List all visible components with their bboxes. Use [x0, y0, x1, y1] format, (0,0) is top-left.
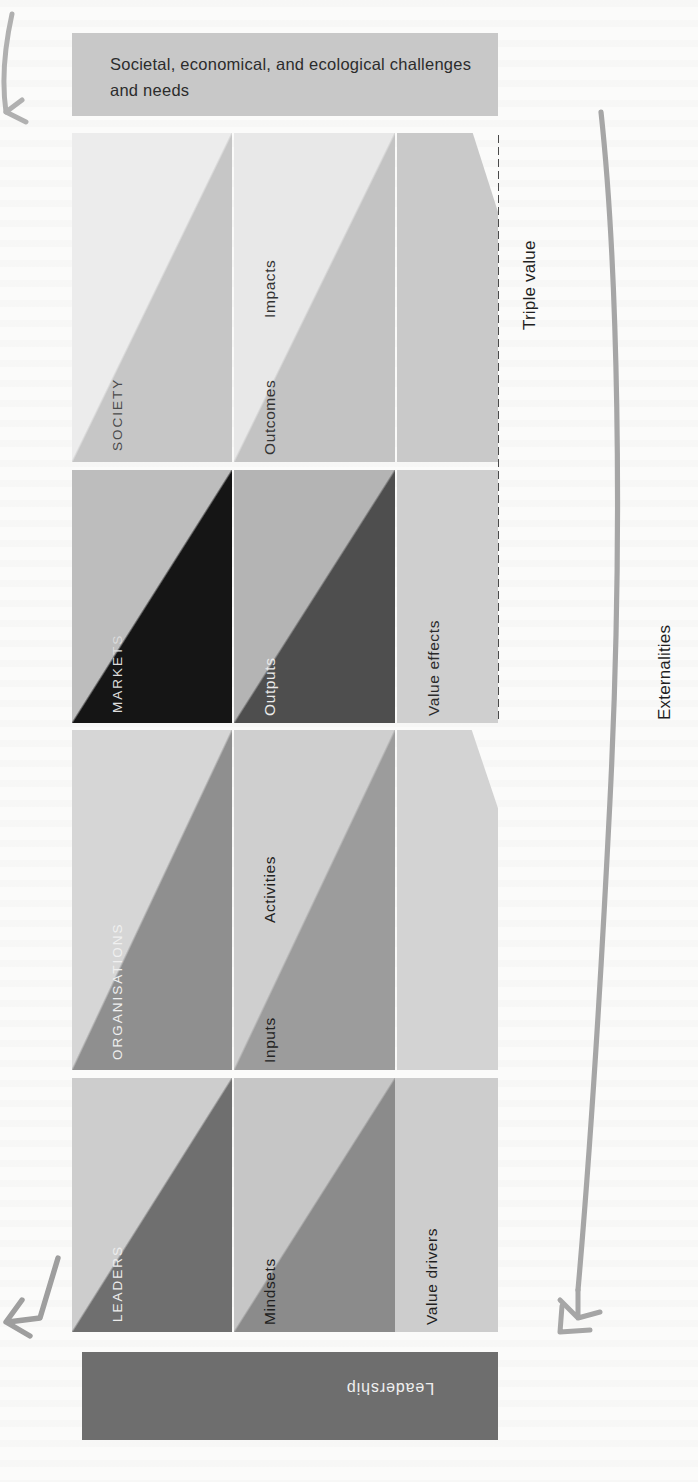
bottom-left-arrowhead — [6, 1300, 30, 1336]
organisations-activities-label: Activities — [261, 856, 279, 923]
prism-highlight — [72, 730, 232, 1070]
markets-value-effects-label: Value effects — [425, 620, 443, 716]
band-markets: MARKETS Outputs Value effects — [72, 470, 498, 723]
leaders-value-drivers-label: Value drivers — [423, 1228, 441, 1325]
society-impacts-label: Impacts — [261, 260, 279, 318]
leadership-footer-text: Leadership — [346, 1379, 434, 1397]
prism-highlight — [72, 1078, 232, 1332]
society-col-actor: SOCIETY — [72, 133, 232, 462]
organisations-col-actor: ORGANISATIONS — [72, 730, 232, 1070]
society-col-outcomes: Outcomes Impacts — [234, 133, 395, 462]
leaders-mindsets-label: Mindsets — [261, 1258, 279, 1325]
band-organisations: ORGANISATIONS Inputs Activities — [72, 730, 498, 1070]
externalities-arrowhead-bottom — [560, 1290, 600, 1318]
prism-highlight — [234, 730, 395, 1070]
prism-highlight — [234, 470, 395, 723]
organisations-col-tail — [397, 730, 498, 1070]
markets-outputs-label: Outputs — [261, 658, 279, 716]
leadership-footer-bar: Leadership — [82, 1352, 498, 1440]
bottom-left-arrow-curve — [8, 1258, 58, 1322]
organisations-col-inputs: Inputs Activities — [234, 730, 395, 1070]
externalities-curve — [578, 112, 618, 1290]
society-col-tail — [397, 133, 498, 462]
society-actor-label: SOCIETY — [110, 378, 125, 451]
prism-highlight — [234, 1078, 395, 1332]
leaders-col-mindsets: Mindsets — [234, 1078, 395, 1332]
band-society: SOCIETY Outcomes Impacts — [72, 133, 498, 462]
top-left-arrow-curve — [4, 14, 12, 112]
band-leaders: LEADERS Mindsets — [72, 1078, 418, 1332]
leaders-actor-label: LEADERS — [110, 1245, 125, 1322]
markets-col-value-effects: Value effects — [397, 470, 498, 723]
prism-highlight — [72, 470, 232, 723]
challenges-header-bar: Societal, economical, and ecological cha… — [72, 33, 498, 116]
externalities-arrowhead-bottom-hook — [560, 1306, 590, 1332]
leaders-col-value-drivers: Value drivers — [395, 1078, 498, 1332]
markets-actor-label: MARKETS — [110, 634, 125, 713]
organisations-actor-label: ORGANISATIONS — [110, 922, 125, 1060]
top-left-arrowhead — [6, 100, 26, 122]
leaders-col-actor: LEADERS — [72, 1078, 232, 1332]
organisations-inputs-label: Inputs — [261, 1017, 279, 1063]
prism-highlight — [234, 133, 395, 462]
triple-value-label: Triple value — [520, 240, 540, 330]
markets-col-actor: MARKETS — [72, 470, 232, 723]
markets-col-outputs: Outputs — [234, 470, 395, 723]
challenges-header-text: Societal, economical, and ecological cha… — [110, 52, 480, 103]
prism-highlight — [72, 133, 232, 462]
externalities-label: Externalities — [655, 625, 675, 720]
society-outcomes-label: Outcomes — [261, 380, 279, 455]
triple-value-dotted-divider — [497, 133, 500, 721]
